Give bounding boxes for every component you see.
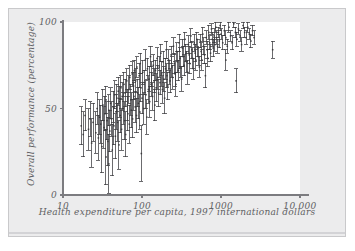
data-point-errorbar xyxy=(83,100,87,131)
bottom-rule xyxy=(9,232,345,234)
data-point-errorbar xyxy=(79,107,83,145)
plot-wrapper: 10100100010 000 050100 Health expenditur… xyxy=(9,9,345,236)
y-axis-label: Overall performance (percentage) xyxy=(26,26,36,186)
figure-container: 10100100010 000 050100 Health expenditur… xyxy=(0,0,355,251)
data-point-errorbar xyxy=(179,67,183,91)
data-point-errorbar xyxy=(174,72,178,96)
y-tick-label: 0 xyxy=(29,190,57,200)
data-point-errorbar xyxy=(139,126,143,181)
x-axis-label: Health expenditure per capita, 1997 inte… xyxy=(9,207,345,217)
data-point-errorbar xyxy=(104,86,108,114)
data-point-errorbar xyxy=(105,102,109,140)
data-point-errorbar xyxy=(104,129,108,184)
data-point-errorbar xyxy=(162,83,166,114)
data-point-errorbar xyxy=(208,44,212,61)
data-point-errorbar xyxy=(81,112,85,157)
data-point-errorbar xyxy=(232,22,236,27)
data-markers xyxy=(79,22,275,193)
data-point-errorbar xyxy=(271,41,275,58)
data-point-errorbar xyxy=(234,69,238,93)
data-point-errorbar xyxy=(208,36,212,50)
